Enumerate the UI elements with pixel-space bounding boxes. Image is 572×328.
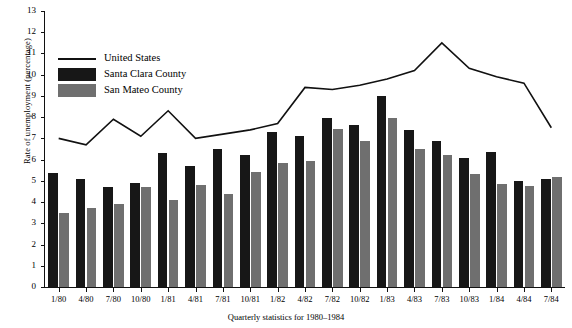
legend-item-united-states: United States [58,50,186,66]
x-tick-mark [497,288,498,292]
x-tick-label: 1/80 [51,294,66,304]
legend-item-san-mateo: San Mateo County [58,82,186,98]
x-tick-mark [414,288,415,292]
x-tick-label: 4/80 [78,294,93,304]
x-tick-label: 1/83 [380,294,395,304]
x-tick-mark [332,288,333,292]
x-tick-mark [442,288,443,292]
x-tick-mark [223,288,224,292]
x-tick-label: 10/80 [131,294,150,304]
chart-legend: United States Santa Clara County San Mat… [58,50,186,98]
y-tick-label: 7 [20,133,36,142]
line-swatch-icon [58,52,96,65]
x-tick-label: 4/81 [188,294,203,304]
legend-label-santa-clara: Santa Clara County [104,68,186,80]
x-tick-label: 7/80 [106,294,121,304]
legend-label-united-states: United States [104,52,160,64]
y-tick-label: 1 [20,261,36,270]
legend-item-santa-clara: Santa Clara County [58,66,186,82]
y-tick-label: 3 [20,218,36,227]
y-tick-label: 8 [20,112,36,121]
gray-swatch-icon [58,84,96,97]
x-tick-label: 7/81 [215,294,230,304]
x-tick-mark [113,288,114,292]
x-tick-label: 1/82 [270,294,285,304]
x-tick-label: 10/81 [241,294,260,304]
x-tick-mark [86,288,87,292]
x-tick-mark [305,288,306,292]
x-tick-label: 4/82 [297,294,312,304]
x-tick-label: 7/83 [434,294,449,304]
y-tick-label: 4 [20,197,36,206]
y-tick-label: 10 [20,70,36,79]
x-tick-mark [196,288,197,292]
x-tick-mark [360,288,361,292]
x-tick-mark [59,288,60,292]
x-tick-label: 10/82 [350,294,369,304]
x-tick-mark [551,288,552,292]
y-tick-label: 6 [20,155,36,164]
x-tick-label: 10/83 [460,294,479,304]
x-tick-mark [387,288,388,292]
x-tick-label: 4/84 [516,294,531,304]
y-tick-label: 13 [20,6,36,15]
unemployment-chart: Rate of unemployment (percentage) 012345… [0,0,572,328]
x-tick-label: 1/81 [161,294,176,304]
x-tick-mark [278,288,279,292]
y-tick-label: 11 [20,48,36,57]
y-tick-label: 9 [20,91,36,100]
x-axis-caption: Quarterly statistics for 1980–1984 [0,312,572,322]
legend-label-san-mateo: San Mateo County [104,84,183,96]
x-tick-mark [141,288,142,292]
x-tick-mark [524,288,525,292]
y-tick-label: 0 [20,282,36,291]
x-tick-mark [168,288,169,292]
y-tick-label: 5 [20,176,36,185]
x-tick-label: 7/84 [544,294,559,304]
x-tick-mark [469,288,470,292]
x-tick-label: 1/84 [489,294,504,304]
x-tick-label: 4/83 [407,294,422,304]
black-swatch-icon [58,68,96,81]
x-tick-mark [250,288,251,292]
x-tick-label: 7/82 [325,294,340,304]
y-tick-label: 12 [20,27,36,36]
y-tick-label: 2 [20,240,36,249]
